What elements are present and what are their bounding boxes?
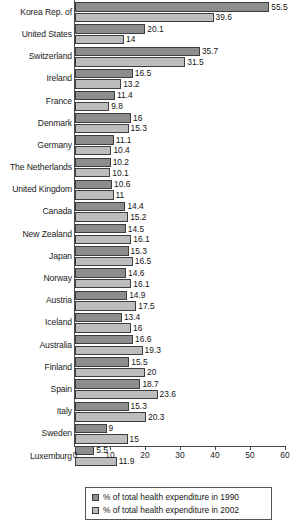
bar-pair: 35.731.5 <box>75 45 293 67</box>
bar-slot: 15.3 <box>75 124 293 133</box>
bar-slot: 31.5 <box>75 57 293 66</box>
bar-1990 <box>75 335 133 344</box>
category-label: Italy <box>0 400 72 422</box>
bar-slot: 23.6 <box>75 390 293 399</box>
bar-slot: 15.3 <box>75 402 293 411</box>
bar-value-label: 20.1 <box>145 24 163 33</box>
bar-value-label: 9 <box>107 424 114 433</box>
bar-group: Korea Rep. of55.539.6 <box>0 1 293 23</box>
bar-1990 <box>75 180 112 189</box>
bar-pair: 15.320.3 <box>75 400 293 422</box>
bar-value-label: 15 <box>128 434 139 443</box>
bar-slot: 15.3 <box>75 246 293 255</box>
bar-1990 <box>75 291 127 300</box>
x-tick-label: 40 <box>210 451 219 459</box>
bar-group: Italy15.320.3 <box>0 400 293 422</box>
bar-slot: 14.4 <box>75 202 293 211</box>
bar-value-label: 10.4 <box>111 146 129 155</box>
bar-slot: 10.6 <box>75 180 293 189</box>
bar-slot: 11 <box>75 190 293 199</box>
plot-area: Korea Rep. of55.539.6United States20.114… <box>0 0 293 447</box>
bar-slot: 15.2 <box>75 212 293 221</box>
bar-value-label: 31.5 <box>185 57 203 66</box>
bar-slot: 9.8 <box>75 102 293 111</box>
bar-slot: 10.2 <box>75 158 293 167</box>
bar-value-label: 16.1 <box>131 235 149 244</box>
bar-slot: 35.7 <box>75 47 293 56</box>
category-label: United States <box>0 23 72 45</box>
bar-group: France11.49.8 <box>0 90 293 112</box>
category-label: Finland <box>0 356 72 378</box>
bar-value-label: 10.2 <box>111 158 129 167</box>
legend-label-2002: % of total health expenditure in 2002 <box>103 506 239 514</box>
x-tick-label: 0 <box>73 451 78 459</box>
bar-1990 <box>75 24 145 33</box>
bar-2002 <box>75 212 128 221</box>
chart-legend: % of total health expenditure in 1990 % … <box>85 487 272 520</box>
bar-pair: 10.611 <box>75 179 293 201</box>
bar-1990 <box>75 313 122 322</box>
bar-2002 <box>75 146 111 155</box>
bar-value-label: 39.6 <box>214 13 232 22</box>
bar-2002 <box>75 79 121 88</box>
bar-value-label: 10.6 <box>112 180 130 189</box>
bar-value-label: 20 <box>145 368 156 377</box>
bar-value-label: 17.5 <box>136 301 154 310</box>
bar-2002 <box>75 35 124 44</box>
bar-2002 <box>75 257 133 266</box>
legend-swatch-1990-icon <box>92 494 99 501</box>
bar-slot: 16.6 <box>75 335 293 344</box>
bar-value-label: 14.4 <box>125 202 143 211</box>
bar-slot: 14.6 <box>75 268 293 277</box>
bar-2002 <box>75 434 128 443</box>
bar-2002 <box>75 368 145 377</box>
bar-1990 <box>75 2 269 11</box>
bar-2002 <box>75 390 158 399</box>
bar-value-label: 14.6 <box>126 268 144 277</box>
bar-slot: 11.1 <box>75 135 293 144</box>
bar-pair: 20.114 <box>75 23 293 45</box>
bar-value-label: 14.5 <box>126 224 144 233</box>
category-label: Germany <box>0 134 72 156</box>
category-label: The Netherlands <box>0 156 72 178</box>
bar-value-label: 11.1 <box>114 135 132 144</box>
bar-value-label: 10.1 <box>110 168 128 177</box>
bar-value-label: 15.2 <box>128 212 146 221</box>
bar-slot: 15.5 <box>75 357 293 366</box>
bar-group: Norway14.616.1 <box>0 267 293 289</box>
bar-2002 <box>75 13 214 22</box>
bar-slot: 16.1 <box>75 235 293 244</box>
bar-group: United States20.114 <box>0 23 293 45</box>
bar-2002 <box>75 190 114 199</box>
bar-2002 <box>75 235 131 244</box>
category-label: Austria <box>0 289 72 311</box>
bar-slot: 19.3 <box>75 346 293 355</box>
bar-group: The Netherlands10.210.1 <box>0 156 293 178</box>
bar-group: United Kingdom10.611 <box>0 179 293 201</box>
bar-group: Japan15.316.5 <box>0 245 293 267</box>
bar-group: Sweden915 <box>0 423 293 445</box>
legend-item-2002: % of total health expenditure in 2002 <box>92 504 271 517</box>
bar-slot: 16.5 <box>75 69 293 78</box>
category-label: Korea Rep. of <box>0 1 72 23</box>
bar-pair: 18.723.6 <box>75 378 293 400</box>
bar-value-label: 15.3 <box>129 124 147 133</box>
bar-slot: 13.4 <box>75 313 293 322</box>
bar-group: Spain18.723.6 <box>0 378 293 400</box>
category-label: Canada <box>0 201 72 223</box>
bar-value-label: 55.5 <box>269 2 287 11</box>
bar-1990 <box>75 158 111 167</box>
category-label: Norway <box>0 267 72 289</box>
legend-item-1990: % of total health expenditure in 1990 <box>92 491 271 504</box>
bar-slot: 55.5 <box>75 2 293 11</box>
bar-pair: 55.539.6 <box>75 1 293 23</box>
bar-pair: 14.917.5 <box>75 289 293 311</box>
bar-pair: 1615.3 <box>75 112 293 134</box>
bar-group: Canada14.415.2 <box>0 201 293 223</box>
bar-rows: Korea Rep. of55.539.6United States20.114… <box>0 1 293 467</box>
bar-value-label: 15.3 <box>129 246 147 255</box>
bar-slot: 10.1 <box>75 168 293 177</box>
category-label: Japan <box>0 245 72 267</box>
x-tick-label: 60 <box>280 451 289 459</box>
bar-value-label: 11 <box>114 190 125 199</box>
